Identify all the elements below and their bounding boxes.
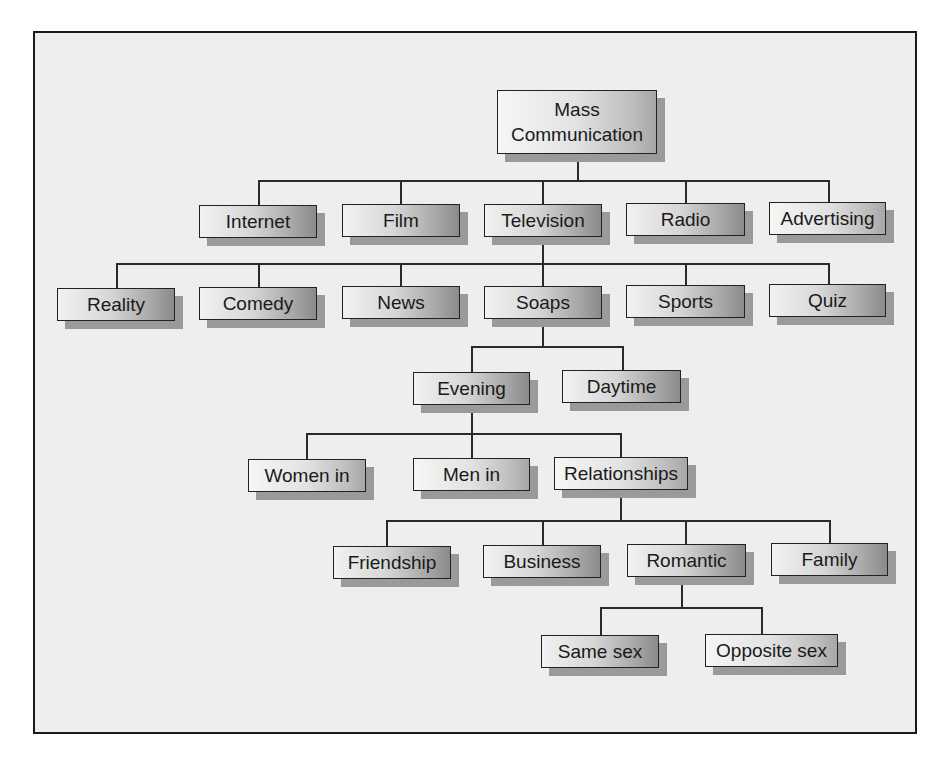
- node-box: Men in: [413, 458, 530, 491]
- connector-relationships-bar: [386, 520, 831, 522]
- node-sports: Sports: [626, 285, 745, 318]
- node-box: Television: [484, 204, 602, 237]
- node-box: Women in: [248, 459, 366, 492]
- node-box: Business: [483, 545, 601, 578]
- node-box: Film: [342, 204, 460, 237]
- node-women-in: Women in: [248, 459, 366, 492]
- node-box: Radio: [626, 203, 745, 236]
- connector-to-evening: [471, 346, 473, 372]
- node-box: Romantic: [627, 544, 746, 577]
- node-opposite-sex: Opposite sex: [705, 634, 838, 667]
- node-business: Business: [483, 545, 601, 578]
- connector-to-women-in: [306, 433, 308, 459]
- connector-to-business: [542, 520, 544, 545]
- node-label-line1: Mass: [554, 97, 599, 122]
- node-box: Relationships: [554, 457, 688, 490]
- node-label-line2: Communication: [511, 122, 643, 147]
- node-television: Television: [484, 204, 602, 237]
- connector-to-men-in: [471, 433, 473, 458]
- node-box: Daytime: [562, 370, 681, 403]
- node-romantic: Romantic: [627, 544, 746, 577]
- node-box: Reality: [57, 288, 175, 321]
- connector-level1-bar: [258, 180, 830, 182]
- connector-to-television: [542, 180, 544, 204]
- connector-to-radio: [685, 180, 687, 203]
- connector-to-news: [400, 263, 402, 286]
- node-evening: Evening: [413, 372, 530, 405]
- connector-evening-bar: [306, 433, 622, 435]
- connector-to-soaps: [542, 263, 544, 286]
- node-men-in: Men in: [413, 458, 530, 491]
- node-box: Opposite sex: [705, 634, 838, 667]
- connector-to-family: [829, 520, 831, 543]
- node-advertising: Advertising: [769, 202, 886, 235]
- connector-to-daytime: [622, 346, 624, 370]
- connector-to-sports: [685, 263, 687, 285]
- connector-to-same-sex: [600, 607, 602, 635]
- connector-romantic-bar: [600, 607, 763, 609]
- node-box: Comedy: [199, 287, 317, 320]
- connector-to-opposite-sex: [761, 607, 763, 634]
- connector-to-comedy: [258, 263, 260, 287]
- connector-to-advertising: [828, 180, 830, 202]
- node-box: Quiz: [769, 284, 886, 317]
- node-box: Mass Communication: [497, 90, 657, 154]
- node-news: News: [342, 286, 460, 319]
- connector-to-reality: [116, 263, 118, 288]
- connector-to-quiz: [828, 263, 830, 284]
- node-quiz: Quiz: [769, 284, 886, 317]
- node-soaps: Soaps: [484, 286, 602, 319]
- connector-to-friendship: [386, 520, 388, 546]
- node-box: Soaps: [484, 286, 602, 319]
- connector-to-romantic: [685, 520, 687, 544]
- node-box: Advertising: [769, 202, 886, 235]
- connector-to-film: [400, 180, 402, 204]
- node-family: Family: [771, 543, 888, 576]
- connector-soaps-bar: [471, 346, 624, 348]
- node-relationships: Relationships: [554, 457, 688, 490]
- node-mass-communication: Mass Communication: [497, 90, 657, 154]
- node-box: Family: [771, 543, 888, 576]
- node-radio: Radio: [626, 203, 745, 236]
- node-box: News: [342, 286, 460, 319]
- node-reality: Reality: [57, 288, 175, 321]
- node-comedy: Comedy: [199, 287, 317, 320]
- node-internet: Internet: [199, 205, 317, 238]
- node-friendship: Friendship: [333, 546, 451, 579]
- node-box: Friendship: [333, 546, 451, 579]
- connector-television-bar: [116, 263, 830, 265]
- connector-to-internet: [258, 180, 260, 205]
- node-box: Same sex: [541, 635, 659, 668]
- connector-to-relationships: [620, 433, 622, 457]
- node-film: Film: [342, 204, 460, 237]
- node-daytime: Daytime: [562, 370, 681, 403]
- node-box: Internet: [199, 205, 317, 238]
- node-same-sex: Same sex: [541, 635, 659, 668]
- node-box: Sports: [626, 285, 745, 318]
- node-box: Evening: [413, 372, 530, 405]
